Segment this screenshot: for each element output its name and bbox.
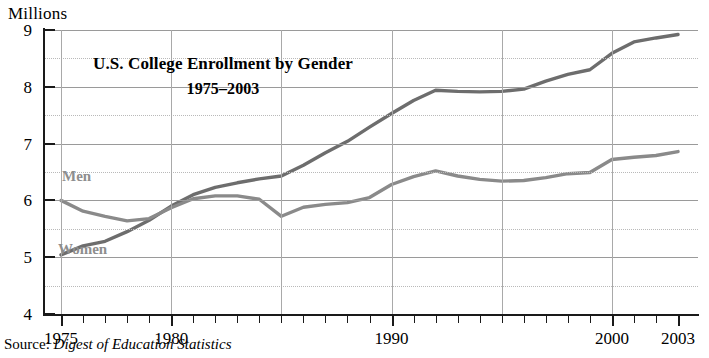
y-axis-tick-label: 6 <box>24 192 33 209</box>
series-line-men <box>61 152 678 221</box>
gridline-horizontal-major <box>43 144 698 145</box>
x-axis-tick-minor <box>347 314 348 323</box>
x-axis-tick-label: 2000 <box>595 330 629 347</box>
y-axis-tick-label: 5 <box>24 249 33 266</box>
x-axis-tick-minor <box>193 314 194 323</box>
gridline-vertical-major <box>392 30 393 314</box>
y-axis-tick-label: 7 <box>24 135 33 152</box>
x-axis-tick-minor <box>656 314 657 323</box>
x-axis-tick-major <box>171 314 173 326</box>
x-axis-tick-minor <box>546 314 547 323</box>
x-axis-tick-minor <box>590 314 591 323</box>
series-label-women: Women <box>58 241 107 258</box>
x-axis-tick-minor <box>303 314 304 323</box>
x-axis-tick-major <box>61 314 63 326</box>
x-axis-tick-minor <box>414 314 415 323</box>
x-axis-tick-minor <box>237 314 238 323</box>
x-axis-tick-minor <box>83 314 84 323</box>
gridline-vertical-major <box>502 30 503 314</box>
y-axis-tick-label: 4 <box>24 306 33 323</box>
gridline-horizontal-minor <box>43 172 698 173</box>
chart-figure: Millions 456789 19751980199020002003 U.S… <box>0 0 709 358</box>
x-axis-tick-minor <box>524 314 525 323</box>
x-axis-tick-minor <box>480 314 481 323</box>
x-axis-tick-minor <box>259 314 260 323</box>
gridline-horizontal-major <box>43 200 698 201</box>
source-title: Digest of Education Statistics <box>54 336 232 352</box>
gridline-horizontal-minor <box>43 115 698 116</box>
x-axis-tick-major <box>612 314 614 326</box>
gridline-horizontal-major <box>43 30 698 31</box>
x-axis-tick-label: 2003 <box>661 330 695 347</box>
x-axis-tick-label: 1990 <box>375 330 409 347</box>
x-axis-tick-minor <box>215 314 216 323</box>
x-axis-tick-minor <box>281 314 282 323</box>
y-axis-tick-label: 8 <box>24 78 33 95</box>
gridline-horizontal-minor <box>43 229 698 230</box>
chart-title-line1: U.S. College Enrollment by Gender <box>58 52 388 77</box>
series-label-men: Men <box>62 168 91 185</box>
x-axis-tick-minor <box>105 314 106 323</box>
x-axis-tick-minor <box>127 314 128 323</box>
x-axis-tick-minor <box>634 314 635 323</box>
x-axis-tick-minor <box>149 314 150 323</box>
chart-title-line2: 1975–2003 <box>58 77 388 100</box>
x-axis-tick-minor <box>370 314 371 323</box>
x-axis-tick-minor <box>502 314 503 323</box>
source-prefix: Source: <box>4 336 50 352</box>
x-axis-tick-minor <box>436 314 437 323</box>
x-axis-tick-minor <box>458 314 459 323</box>
gridline-horizontal-minor <box>43 286 698 287</box>
x-axis-tick-major <box>392 314 394 326</box>
x-axis-tick-major <box>678 314 680 326</box>
gridline-horizontal-major <box>43 257 698 258</box>
chart-title: U.S. College Enrollment by Gender 1975–2… <box>58 52 388 100</box>
gridline-vertical-major <box>612 30 613 314</box>
y-axis-line <box>43 28 45 316</box>
y-axis-tick-label: 9 <box>24 22 33 39</box>
x-axis-line: 19751980199020002003 <box>43 314 699 316</box>
x-axis-tick-minor <box>325 314 326 323</box>
source-note: Source: Digest of Education Statistics <box>4 336 231 353</box>
x-axis-tick-minor <box>568 314 569 323</box>
y-axis-unit-label: Millions <box>8 4 67 24</box>
